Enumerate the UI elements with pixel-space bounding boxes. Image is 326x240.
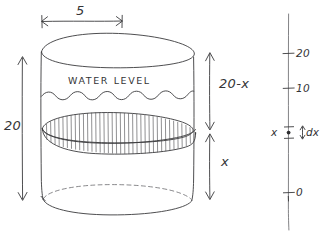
water-level-group: WATER LEVEL <box>42 75 194 100</box>
water-surface-wavy-line <box>42 91 194 100</box>
axis-point-x-dot <box>287 131 291 135</box>
representative-slab <box>42 113 195 155</box>
diameter-label: 5 <box>76 3 85 18</box>
diameter-dimension: 5 <box>42 3 123 28</box>
diagram-canvas: 5 WATER LEVEL <box>0 0 326 240</box>
cylinder-tank-sketch: 5 WATER LEVEL <box>0 0 326 240</box>
vertical-number-line: 20 10 x dx 0 <box>270 14 320 230</box>
axis-point-x-label: x <box>270 126 278 138</box>
cylinder-top-ellipse <box>42 33 195 68</box>
cylinder-left-wall <box>41 53 43 200</box>
below-slab-label: x <box>220 154 229 169</box>
slab-front-rim <box>42 129 195 143</box>
axis-tick-label-10: 10 <box>296 82 310 94</box>
cylinder-body <box>41 33 194 215</box>
cylinder-bottom-front-arc <box>43 199 192 215</box>
depth-dimensions: 20-x x <box>206 53 250 200</box>
dx-label: dx <box>306 126 320 138</box>
axis-tick-label-20: 20 <box>296 47 310 59</box>
tank-height-label: 20 <box>4 118 21 133</box>
water-level-label: WATER LEVEL <box>68 75 151 86</box>
diameter-dimension-line <box>42 21 122 22</box>
axis-tick-label-0: 0 <box>296 186 303 198</box>
slab-bottom-front-arc <box>43 130 196 155</box>
cylinder-bottom-hidden-arc <box>43 185 191 200</box>
tank-height-dimension: 20 <box>4 57 27 201</box>
above-slab-label: 20-x <box>219 76 249 91</box>
